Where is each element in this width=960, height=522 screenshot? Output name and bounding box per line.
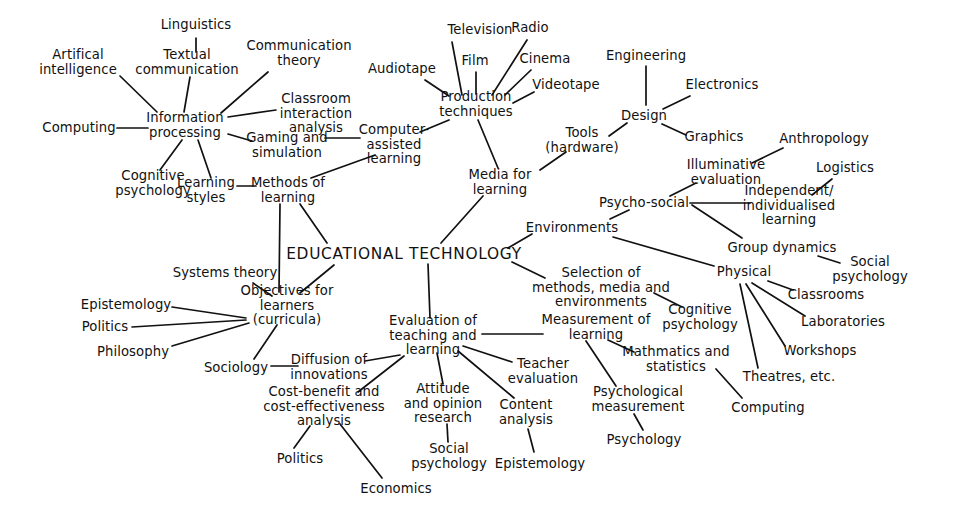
node-sociology: Sociology [204, 361, 268, 376]
node-politics-left: Politics [82, 320, 129, 335]
node-diffusion-of-innovations: Diffusion of innovations [290, 353, 368, 382]
node-engineering: Engineering [606, 49, 686, 64]
edge-attitude_and_opinion_research--social_psychology_bottom [447, 424, 448, 442]
node-social-psychology-right: Social psychology [832, 255, 908, 284]
node-television: Television [447, 23, 512, 38]
node-philosophy: Philosophy [97, 345, 169, 360]
node-epistemology-left: Epistemology [81, 298, 172, 313]
node-teacher-evaluation: Teacher evaluation [508, 357, 578, 386]
node-computer-assisted-learning: Computer- assisted learning [359, 123, 429, 167]
edge-environments--psycho_social [610, 210, 629, 219]
edge-educational_technology--evaluation_of_teaching_and_learning [428, 264, 430, 318]
edge-politics_left--objectives_for_learners [132, 320, 246, 327]
node-communication-theory: Communication theory [246, 39, 351, 68]
node-social-psychology-bottom: Social psychology [411, 442, 487, 471]
node-mathmatics-and-statistics: Mathmatics and statistics [622, 345, 729, 374]
node-workshops: Workshops [784, 344, 857, 359]
edge-methods_of_learning--objectives_for_learners [279, 204, 280, 292]
edge-tools_hardware--media_for_learning [540, 152, 566, 170]
node-cinema: Cinema [520, 52, 571, 67]
node-selection-methods-media-environments: Selection of methods, media and environm… [532, 266, 670, 310]
node-videotape: Videotape [532, 78, 600, 93]
node-media-for-learning: Media for learning [469, 168, 532, 197]
node-educational-technology: EDUCATIONAL TECHNOLOGY [286, 246, 522, 263]
edge-physical--theatres_etc [740, 284, 758, 368]
edge-methods_of_learning--educational_technology [300, 204, 327, 243]
edge-artificial_intelligence--information_processing [120, 76, 157, 112]
node-epistemology-bottom: Epistemology [495, 457, 586, 472]
edge-media_for_learning--educational_technology [441, 196, 483, 243]
edge-philosophy--objectives_for_learners [172, 323, 249, 346]
node-computing-right: Computing [731, 401, 804, 416]
node-audiotape: Audiotape [368, 62, 436, 77]
edge-content_analysis--epistemology_bottom [528, 429, 534, 452]
node-illuminative-evaluation: Illuminative evaluation [687, 158, 765, 187]
node-anthropology: Anthropology [779, 132, 869, 147]
edge-production_techniques--media_for_learning [478, 120, 498, 168]
node-logistics: Logistics [816, 161, 874, 176]
node-cognitive-psychology-right: Cognitive psychology [662, 303, 738, 332]
edge-communication_theory--information_processing [221, 72, 268, 113]
edge-videotape--production_techniques [513, 92, 534, 103]
node-systems-theory: Systems theory [173, 266, 278, 281]
node-methods-of-learning: Methods of learning [251, 176, 325, 205]
node-electronics: Electronics [686, 78, 759, 93]
edge-information_processing--learning_styles [198, 140, 211, 178]
node-computing-left: Computing [42, 121, 115, 136]
node-content-analysis: Content analysis [499, 398, 553, 427]
edge-cost_benefit_analysis--politics_bottom [294, 426, 310, 448]
edge-psycho_social--group_dynamics [692, 205, 742, 238]
node-psycho-social: Psycho-social [599, 196, 689, 211]
node-laboratories: Laboratories [801, 315, 885, 330]
edge-design--graphics [662, 124, 686, 135]
node-artificial-intelligence: Artifical intelligence [39, 48, 117, 77]
node-psychology: Psychology [607, 433, 682, 448]
concept-map-canvas: Artifical intelligenceLinguisticsTextual… [0, 0, 960, 522]
edge-information_processing--classroom_interaction_analysis [228, 110, 276, 117]
node-textual-communication: Textual communication [135, 48, 238, 77]
node-objectives-for-learners: Objectives for learners (curricula) [240, 284, 333, 328]
edge-environments--physical [613, 237, 714, 266]
node-tools-hardware: Tools (hardware) [545, 126, 618, 155]
edge-sociology--objectives_for_learners [254, 325, 277, 359]
node-linguistics: Linguistics [161, 18, 232, 33]
node-economics: Economics [360, 482, 432, 497]
node-design: Design [621, 109, 667, 124]
node-physical: Physical [717, 265, 771, 280]
node-evaluation-of-teaching-and-learning: Evaluation of teaching and learning [389, 314, 477, 358]
node-group-dynamics: Group dynamics [728, 241, 837, 256]
node-radio: Radio [511, 21, 549, 36]
edge-information_processing--cognitive_psychology_left [160, 140, 182, 170]
node-theatres-etc: Theatres, etc. [743, 370, 835, 385]
node-environments: Environments [526, 221, 618, 236]
node-cost-benefit-analysis: Cost-benefit and cost-effectiveness anal… [263, 385, 385, 429]
edge-electronics--design [663, 96, 690, 109]
edge-cost_benefit_analysis--economics [340, 424, 382, 478]
edge-psychological_measurement--psychology [634, 414, 643, 430]
node-learning-styles: Learning styles [177, 176, 235, 205]
node-gaming-and-simulation: Gaming and simulation [246, 131, 328, 160]
node-psychological-measurement: Psychological measurement [591, 385, 684, 414]
edge-measurement_of_learning--psychological_measurement [586, 341, 616, 386]
edge-radio--production_techniques [492, 40, 527, 95]
node-production-techniques: Production techniques [439, 90, 513, 119]
edge-epistemology_left--objectives_for_learners [172, 307, 246, 318]
node-graphics: Graphics [684, 130, 743, 145]
node-information-processing: Information processing [146, 111, 223, 140]
edge-textual_communication--information_processing [184, 77, 190, 112]
node-independent-individualised-learning: Independent/ individualised learning [743, 184, 835, 228]
node-film: Film [461, 54, 488, 69]
node-politics-bottom: Politics [277, 452, 324, 467]
node-classrooms: Classrooms [788, 288, 865, 303]
node-attitude-and-opinion-research: Attitude and opinion research [404, 382, 483, 426]
edge-television--production_techniques [452, 42, 462, 95]
node-measurement-of-learning: Measurement of learning [542, 313, 651, 342]
